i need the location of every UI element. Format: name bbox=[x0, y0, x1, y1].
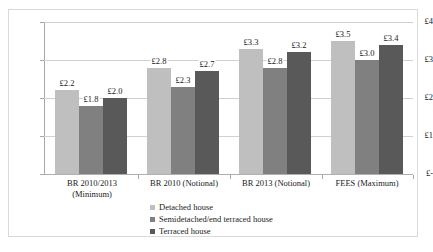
bar-label-terraced-2: £3.2 bbox=[291, 40, 308, 50]
bar-label-terraced-0: £2.0 bbox=[107, 86, 124, 96]
category-label-2-line-0: BR 2013 (Notional) bbox=[230, 178, 322, 189]
bar-group-br-2010-2013-minimum: £2.2 £1.8 £2.0 bbox=[46, 22, 136, 174]
legend-item-terraced-house[interactable]: Terraced house bbox=[150, 226, 273, 237]
bar-semidetached-1[interactable]: £2.3 bbox=[171, 87, 195, 174]
legend-swatch-icon-semidetached bbox=[150, 217, 155, 222]
x-tick-mark-4 bbox=[413, 175, 414, 179]
legend-item-semidetached-end-terraced-house[interactable]: Semidetached/end terraced house bbox=[150, 214, 273, 225]
bar-terraced-1[interactable]: £2.7 bbox=[195, 71, 219, 174]
gridline-baseline bbox=[44, 174, 413, 175]
legend-swatch-icon-terraced bbox=[150, 229, 155, 234]
bar-detached-1[interactable]: £2.8 bbox=[147, 68, 171, 174]
category-label-0: BR 2010/2013 (Minimum) bbox=[46, 178, 138, 200]
bar-label-detached-3: £3.5 bbox=[335, 29, 352, 39]
bar-group-br-2010-notional: £2.8 £2.3 £2.7 bbox=[138, 22, 228, 174]
legend-item-detached-house[interactable]: Detached house bbox=[150, 202, 273, 213]
legend-label-terraced: Terraced house bbox=[159, 226, 211, 237]
bar-terraced-3[interactable]: £3.4 bbox=[379, 45, 403, 174]
category-label-0-line-0: BR 2010/2013 bbox=[46, 178, 138, 189]
bar-semidetached-2[interactable]: £2.8 bbox=[263, 68, 287, 174]
legend-label-semidetached: Semidetached/end terraced house bbox=[159, 214, 273, 225]
bar-chart-figure: £4 £3 £2 £1 £- £2.2 £1.8 £2.0 bbox=[0, 0, 433, 252]
bar-label-semidetached-1: £2.3 bbox=[175, 75, 192, 85]
category-label-1: BR 2010 (Notional) bbox=[138, 178, 230, 189]
bar-label-detached-0: £2.2 bbox=[59, 78, 76, 88]
bar-label-detached-1: £2.8 bbox=[151, 56, 168, 66]
bar-group-fees-maximum: £3.5 £3.0 £3.4 bbox=[322, 22, 412, 174]
bar-label-terraced-3: £3.4 bbox=[383, 33, 400, 43]
bar-label-semidetached-2: £2.8 bbox=[267, 56, 284, 66]
bar-label-semidetached-0: £1.8 bbox=[83, 94, 100, 104]
category-label-3-line-0: FEES (Maximum) bbox=[321, 178, 413, 189]
bar-semidetached-0[interactable]: £1.8 bbox=[79, 106, 103, 174]
bar-group-br-2013-notional: £3.3 £2.8 £3.2 bbox=[230, 22, 320, 174]
category-label-1-line-0: BR 2010 (Notional) bbox=[138, 178, 230, 189]
bar-semidetached-3[interactable]: £3.0 bbox=[355, 60, 379, 174]
bar-label-semidetached-3: £3.0 bbox=[359, 48, 376, 58]
chart-legend: Detached house Semidetached/end terraced… bbox=[150, 202, 273, 237]
legend-label-detached: Detached house bbox=[159, 202, 213, 213]
bar-terraced-2[interactable]: £3.2 bbox=[287, 52, 311, 174]
bar-label-detached-2: £3.3 bbox=[243, 37, 260, 47]
category-label-0-line-1: (Minimum) bbox=[46, 189, 138, 200]
bar-detached-0[interactable]: £2.2 bbox=[55, 90, 79, 174]
category-label-3: FEES (Maximum) bbox=[321, 178, 413, 189]
bar-label-terraced-1: £2.7 bbox=[199, 59, 216, 69]
bar-detached-2[interactable]: £3.3 bbox=[239, 49, 263, 174]
category-label-2: BR 2013 (Notional) bbox=[230, 178, 322, 189]
plot-area: £2.2 £1.8 £2.0 £2.8 £2.3 £2.7 bbox=[44, 22, 413, 174]
bar-terraced-0[interactable]: £2.0 bbox=[103, 98, 127, 174]
legend-swatch-icon-detached bbox=[150, 205, 155, 210]
bar-detached-3[interactable]: £3.5 bbox=[331, 41, 355, 174]
